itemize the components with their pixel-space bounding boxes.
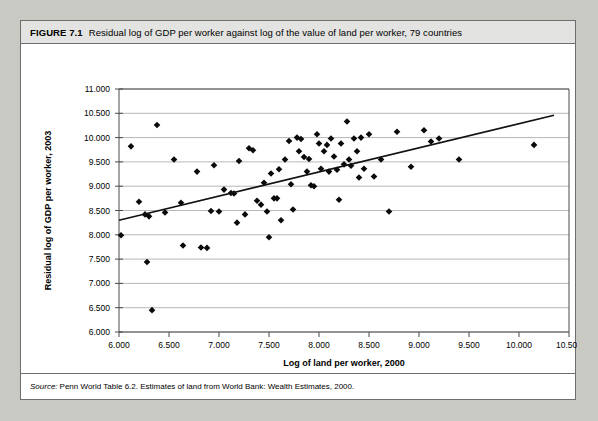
data-point	[144, 259, 151, 266]
figure-source-note: Source: Penn World Table 6.2. Estimates …	[21, 373, 575, 399]
data-point	[194, 168, 201, 175]
data-point	[361, 165, 368, 172]
x-tick-label: 10.500	[556, 340, 577, 350]
data-point	[278, 217, 285, 224]
data-point	[286, 138, 293, 145]
data-point	[221, 186, 228, 193]
data-point	[336, 197, 343, 204]
data-point	[198, 244, 205, 251]
data-point	[208, 208, 215, 215]
y-tick-label: 8.000	[89, 230, 111, 240]
data-point	[324, 142, 331, 149]
y-axis-label: Residual log of GDP per worker, 2003	[43, 131, 53, 290]
data-point	[531, 142, 538, 149]
data-point	[386, 208, 393, 215]
figure-card: FIGURE 7.1 Residual log of GDP per worke…	[20, 20, 576, 400]
data-point	[180, 242, 187, 249]
data-point	[321, 148, 328, 155]
data-point	[236, 158, 243, 165]
y-tick-label: 11.000	[85, 84, 111, 94]
data-point	[264, 208, 271, 215]
figure-title: Residual log of GDP per worker against l…	[89, 27, 462, 38]
data-point	[331, 153, 338, 160]
data-point	[356, 174, 363, 181]
scatter-plot: 6.0006.5007.0007.5008.0008.5009.0009.500…	[21, 44, 575, 375]
y-tick-label: 7.000	[89, 278, 111, 288]
data-point	[328, 135, 335, 142]
data-point	[366, 131, 373, 138]
data-point	[128, 143, 135, 150]
data-point	[358, 134, 365, 141]
y-tick-label: 7.500	[89, 254, 111, 264]
data-point	[234, 219, 241, 226]
data-point	[371, 173, 378, 180]
y-tick-label: 6.000	[89, 327, 111, 337]
y-axis-ticks: 6.0006.5007.0007.5008.0008.5009.0009.500…	[84, 84, 123, 337]
data-point	[288, 181, 295, 188]
x-axis-label: Log of land per worker, 2000	[283, 358, 405, 368]
data-point	[354, 148, 361, 155]
y-tick-label: 8.500	[89, 206, 111, 216]
data-point	[204, 245, 211, 252]
y-tick-label: 6.500	[89, 303, 111, 313]
data-points	[118, 118, 538, 313]
data-point	[394, 128, 401, 135]
x-tick-label: 8.000	[308, 340, 330, 350]
y-tick-label: 10.500	[84, 108, 110, 118]
data-point	[242, 211, 249, 218]
data-point	[314, 131, 321, 138]
y-tick-label: 10.000	[84, 133, 110, 143]
x-tick-label: 9.500	[458, 340, 480, 350]
data-point	[290, 206, 297, 213]
data-point	[211, 162, 218, 169]
data-point	[216, 208, 223, 215]
x-tick-label: 6.500	[158, 340, 180, 350]
x-tick-label: 7.000	[208, 340, 230, 350]
figure-header: FIGURE 7.1 Residual log of GDP per worke…	[21, 21, 575, 44]
data-point	[276, 166, 283, 173]
data-point	[421, 127, 428, 134]
chart-svg: 6.0006.5007.0007.5008.0008.5009.0009.500…	[21, 44, 577, 375]
data-point	[408, 163, 415, 170]
figure-number: FIGURE 7.1	[30, 27, 83, 38]
x-tick-label: 7.500	[258, 340, 280, 350]
source-label: Source:	[30, 382, 58, 391]
y-tick-label: 9.000	[89, 181, 111, 191]
data-point	[268, 170, 275, 177]
data-point	[338, 140, 345, 147]
gridlines	[119, 89, 569, 332]
data-point	[136, 198, 143, 205]
x-tick-label: 10.000	[506, 340, 532, 350]
x-tick-label: 6.000	[108, 340, 130, 350]
source-text: Penn World Table 6.2. Estimates of land …	[60, 382, 355, 391]
data-point	[316, 140, 323, 147]
y-tick-label: 9.500	[89, 157, 111, 167]
x-tick-label: 8.500	[358, 340, 380, 350]
data-point	[436, 135, 443, 142]
x-axis-ticks: 6.0006.5007.0007.5008.0008.5009.0009.500…	[108, 332, 577, 350]
data-point	[344, 118, 351, 125]
trend-line	[119, 115, 554, 220]
data-point	[296, 148, 303, 155]
x-tick-label: 9.000	[408, 340, 430, 350]
data-point	[154, 122, 161, 129]
data-point	[351, 135, 358, 142]
